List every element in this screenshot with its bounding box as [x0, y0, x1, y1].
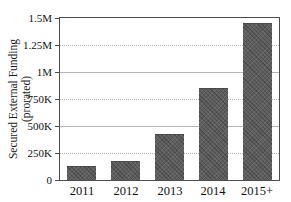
y-tick-mark-0 [55, 180, 59, 181]
y-tick-label-1.25M: 1.25M [4, 40, 52, 51]
x-tick-label-2015+: 2015+ [235, 185, 279, 198]
bar-2014 [199, 88, 228, 180]
y-tick-mark-1M [55, 72, 59, 73]
y-tick-label-750K: 750K [4, 94, 52, 105]
x-tick-label-2014: 2014 [191, 185, 235, 198]
y-tick-label-250K: 250K [4, 148, 52, 159]
y-tick-mark-250K [55, 153, 59, 154]
y-tick-mark-500K [55, 126, 59, 127]
bar-2012 [111, 161, 140, 180]
bar-2011 [67, 166, 96, 180]
y-tick-mark-750K [55, 99, 59, 100]
y-tick-label-0: 0 [4, 175, 52, 186]
y-tick-label-500K: 500K [4, 121, 52, 132]
y-tick-mark-1.5M [55, 18, 59, 19]
x-tick-label-2012: 2012 [104, 185, 148, 198]
y-tick-label-1.5M: 1.5M [4, 13, 52, 24]
y-tick-label-1M: 1M [4, 67, 52, 78]
x-tick-label-2013: 2013 [148, 185, 192, 198]
x-tick-label-2011: 2011 [60, 185, 104, 198]
bar-2015+ [243, 23, 272, 180]
bar-chart: Secured External Funding (prorated) 0250… [0, 0, 291, 202]
plot-area [59, 17, 280, 181]
y-tick-mark-1.25M [55, 45, 59, 46]
bar-2013 [155, 134, 184, 180]
